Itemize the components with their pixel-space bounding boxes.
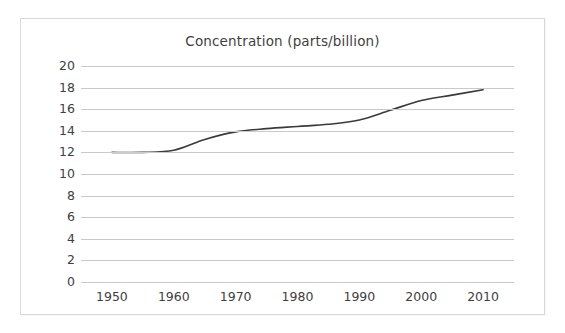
y-tick-label: 14 [33, 125, 75, 138]
y-tick-label: 0 [33, 276, 75, 289]
line-series-concentration [112, 90, 483, 153]
x-tick-label: 1980 [282, 291, 314, 304]
gridline [81, 152, 514, 153]
y-tick-label: 6 [33, 211, 75, 224]
x-tick-label: 1990 [343, 291, 375, 304]
chart-title: Concentration (parts/billion) [21, 33, 544, 49]
y-tick-label: 8 [33, 189, 75, 202]
x-axis: 1950196019701980199020002010 [81, 291, 514, 313]
gridline [81, 174, 514, 175]
gridline [81, 131, 514, 132]
gridline [81, 217, 514, 218]
chart-container: Concentration (parts/billion) 0246810121… [20, 18, 545, 315]
x-tick-label: 2010 [467, 291, 499, 304]
y-tick-label: 16 [33, 103, 75, 116]
y-tick-label: 18 [33, 81, 75, 94]
x-tick-label: 1970 [220, 291, 252, 304]
x-tick-label: 1950 [96, 291, 128, 304]
gridline [81, 88, 514, 89]
y-tick-label: 10 [33, 168, 75, 181]
gridline [81, 109, 514, 110]
y-tick-label: 4 [33, 233, 75, 246]
gridline [81, 239, 514, 240]
gridline [81, 66, 514, 67]
y-tick-label: 20 [33, 60, 75, 73]
x-tick-label: 1960 [158, 291, 190, 304]
gridline [81, 260, 514, 261]
y-tick-label: 2 [33, 254, 75, 267]
gridline [81, 196, 514, 197]
y-axis: 02468101214161820 [33, 66, 75, 282]
x-tick-label: 2000 [405, 291, 437, 304]
gridline [81, 282, 514, 283]
y-tick-label: 12 [33, 146, 75, 159]
plot-area [81, 66, 514, 282]
